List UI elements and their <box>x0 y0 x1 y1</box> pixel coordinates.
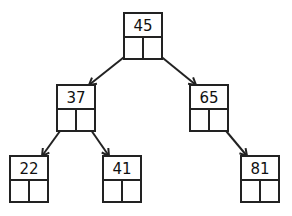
tree-diagram: 453765224181 <box>0 0 292 216</box>
tree-node-41: 41 <box>103 156 141 202</box>
tree-node-45: 45 <box>124 13 162 59</box>
node-value: 41 <box>112 160 131 178</box>
tree-node-65: 65 <box>190 85 228 131</box>
node-value: 45 <box>133 17 152 35</box>
tree-node-22: 22 <box>10 156 48 202</box>
node-value: 65 <box>199 89 218 107</box>
node-value: 22 <box>19 160 38 178</box>
node-value: 81 <box>250 160 269 178</box>
tree-node-37: 37 <box>57 85 95 131</box>
tree-node-81: 81 <box>241 156 279 202</box>
nodes: 453765224181 <box>10 13 279 202</box>
node-value: 37 <box>66 89 85 107</box>
